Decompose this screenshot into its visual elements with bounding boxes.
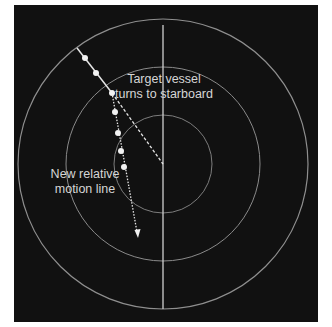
annotation-turn-line1: Target vessel	[127, 72, 201, 86]
target-plot	[115, 130, 121, 136]
target-plot	[112, 109, 118, 115]
target-plot	[121, 164, 127, 170]
annotation-rml-line1: New relative	[51, 167, 120, 181]
radar-plot: Target vessel turns to starboard New rel…	[0, 0, 332, 327]
target-plot	[93, 70, 99, 76]
annotation-turn-line2: turns to starboard	[115, 87, 213, 101]
arrow-head-icon	[135, 229, 141, 238]
target-plot	[82, 55, 88, 61]
target-plot	[118, 148, 124, 154]
annotation-rml-line2: motion line	[55, 182, 115, 196]
